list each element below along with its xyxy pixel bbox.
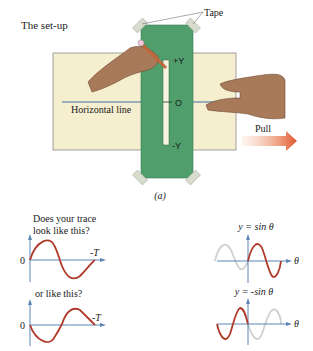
pull-label: Pull [255, 123, 271, 134]
graph-right-2 [217, 298, 292, 345]
plus-y-label: +Y [173, 56, 184, 66]
question-2: or like this? [35, 288, 83, 299]
graph-right-1-title: y = sin θ [237, 221, 273, 232]
figure-caption: (a) [154, 190, 166, 202]
graph-left-1-end: -T [90, 247, 100, 258]
minus-y-label: -Y [172, 141, 181, 151]
setup-title: The set-up [21, 19, 68, 31]
graph-right-2-axis: θ [294, 318, 299, 329]
horizontal-line-label: Horizontal line [71, 104, 132, 115]
question-1: Does your trace [33, 213, 97, 224]
graph-left-1 [28, 234, 106, 282]
pull-arrow-icon [242, 131, 297, 151]
slot [163, 60, 169, 145]
graph-left-1-zero: 0 [20, 255, 25, 266]
figure-canvas: The set-up Horizontal line +Y O -Y Tape … [0, 0, 313, 351]
graph-right-1-axis: θ [294, 255, 299, 266]
graph-left-2-end: -T [92, 312, 102, 323]
question-1b: look like this? [33, 225, 90, 236]
tape-label: Tape [204, 7, 224, 18]
graph-right-2-title: y = -sin θ [234, 286, 274, 297]
graph-right-1 [215, 234, 292, 283]
graph-left-2-zero: 0 [20, 320, 25, 331]
zero-label: O [175, 98, 182, 108]
